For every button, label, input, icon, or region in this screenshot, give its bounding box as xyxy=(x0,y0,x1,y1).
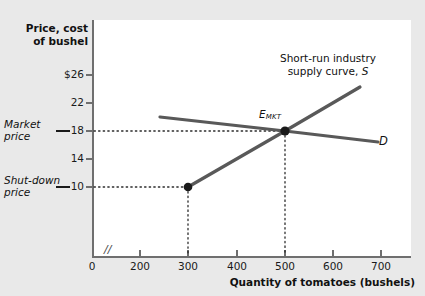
chart-graphics-layer xyxy=(0,0,425,296)
demand-curve xyxy=(160,117,378,142)
shutdown-point-marker xyxy=(184,183,193,192)
market-equilibrium-marker xyxy=(280,126,289,135)
economics-supply-demand-chart: Price, cost of bushel Quantity of tomato… xyxy=(0,0,425,296)
